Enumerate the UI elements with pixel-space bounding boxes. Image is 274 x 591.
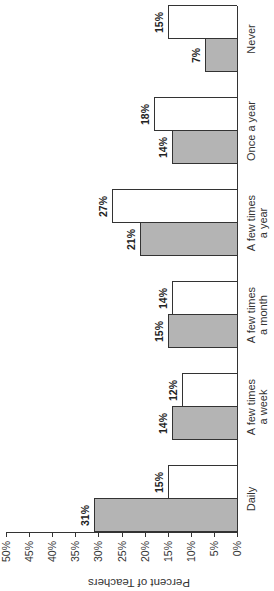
category-label: Once a year xyxy=(245,96,257,166)
category-label: A few timesa week xyxy=(245,372,269,442)
y-tick-label: 10% xyxy=(185,541,197,575)
category-label-line: A few times xyxy=(245,372,257,442)
x-axis-baseline xyxy=(237,6,238,533)
bar-value-label: 7% xyxy=(190,36,202,76)
bar-gray xyxy=(168,314,237,348)
y-tick-label: 20% xyxy=(139,541,151,575)
bar-chart: 0%5%10%15%20%25%30%35%40%45%50%Percent o… xyxy=(0,0,274,591)
bar-value-label: 14% xyxy=(157,279,169,319)
y-tick-label: 45% xyxy=(23,541,35,575)
chart-stage: 0%5%10%15%20%25%30%35%40%45%50%Percent o… xyxy=(0,0,274,591)
category-label-line: Daily xyxy=(245,464,257,534)
category-label-line: a week xyxy=(257,372,269,442)
y-tick-label: 50% xyxy=(0,541,12,575)
bar-gray xyxy=(140,222,237,256)
bar-gray xyxy=(172,130,237,164)
y-axis-title: Percent of Teachers xyxy=(88,577,190,589)
bar-gray xyxy=(94,498,237,532)
bar-value-label: 27% xyxy=(97,187,109,227)
bar-white xyxy=(182,373,237,407)
category-label: A few timesa year xyxy=(245,188,269,258)
y-tick xyxy=(122,532,123,537)
y-tick-label: 15% xyxy=(162,541,174,575)
bar-white xyxy=(168,465,237,499)
category-label: Never xyxy=(245,4,257,74)
y-tick xyxy=(29,532,30,537)
bar-value-label: 18% xyxy=(139,95,151,135)
bar-value-label: 15% xyxy=(153,3,165,43)
bar-value-label: 14% xyxy=(157,128,169,168)
y-tick xyxy=(145,532,146,537)
bar-gray xyxy=(205,38,237,72)
y-tick-label: 30% xyxy=(92,541,104,575)
y-tick xyxy=(75,532,76,537)
y-tick xyxy=(214,532,215,537)
y-tick-label: 25% xyxy=(116,541,128,575)
y-tick xyxy=(237,532,238,537)
category-label-line: Once a year xyxy=(245,96,257,166)
y-tick xyxy=(6,532,7,537)
y-tick-label: 40% xyxy=(46,541,58,575)
y-tick xyxy=(168,532,169,537)
y-tick-label: 5% xyxy=(208,541,220,575)
bar-value-label: 21% xyxy=(125,220,137,260)
y-tick xyxy=(98,532,99,537)
bar-white xyxy=(172,281,237,315)
category-label-line: A few times xyxy=(245,280,257,350)
category-label: Daily xyxy=(245,464,257,534)
category-label-line: Never xyxy=(245,4,257,74)
bar-value-label: 15% xyxy=(153,463,165,503)
category-label-line: a year xyxy=(257,188,269,258)
y-tick-label: 35% xyxy=(69,541,81,575)
bar-value-label: 31% xyxy=(79,496,91,536)
category-label: A few timesa month xyxy=(245,280,269,350)
y-tick-label: 0% xyxy=(231,541,243,575)
bar-gray xyxy=(172,406,237,440)
bar-white xyxy=(112,189,237,223)
y-tick xyxy=(52,532,53,537)
bar-value-label: 12% xyxy=(167,371,179,411)
category-label-line: A few times xyxy=(245,188,257,258)
bar-white xyxy=(154,97,237,131)
bar-white xyxy=(168,5,237,39)
y-tick xyxy=(191,532,192,537)
category-label-line: a month xyxy=(257,280,269,350)
